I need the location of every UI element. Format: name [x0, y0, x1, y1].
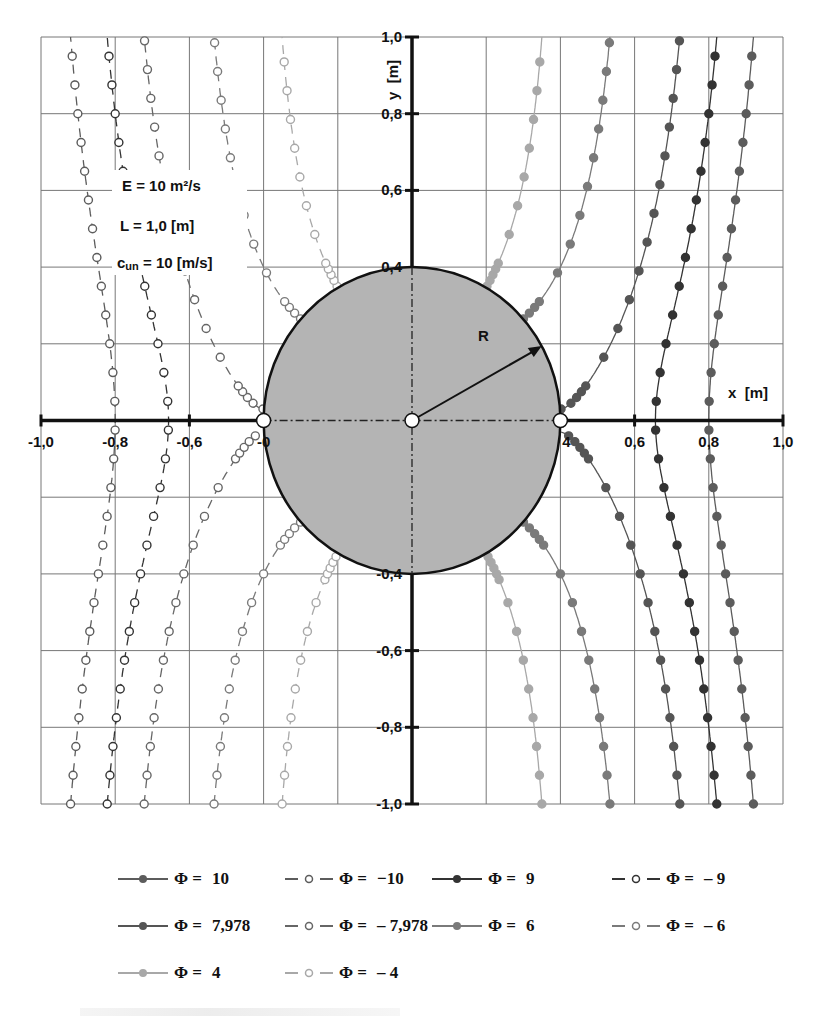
data-point: [710, 771, 718, 779]
data-point: [312, 599, 320, 607]
data-point: [90, 599, 98, 607]
legend-swatch-icon: [118, 872, 170, 886]
legend-value: 4: [212, 963, 221, 983]
data-point: [600, 742, 608, 750]
y-tick-label: -0,4: [376, 565, 403, 582]
data-point: [582, 382, 590, 390]
data-point: [250, 240, 258, 248]
legend-item: Φ = 7,978: [118, 915, 250, 937]
legend-item: Φ = – 4: [283, 962, 398, 984]
data-point: [556, 570, 564, 578]
data-point: [652, 426, 660, 434]
data-point: [625, 296, 633, 304]
data-point: [656, 181, 664, 189]
legend-item: Φ = 9: [432, 868, 535, 890]
data-point: [89, 225, 97, 233]
data-point: [713, 800, 721, 808]
data-point: [210, 800, 218, 808]
data-point: [71, 81, 79, 89]
data-point: [529, 714, 537, 722]
data-point: [650, 209, 658, 217]
series-phi-10: [705, 37, 758, 808]
data-point: [535, 771, 543, 779]
data-point: [281, 298, 289, 306]
data-point: [525, 144, 533, 152]
x-axis-label: x [m]: [728, 384, 768, 401]
data-point: [67, 800, 75, 808]
data-point: [214, 68, 222, 76]
param-e: E = 10 m²/s: [122, 177, 201, 194]
data-point: [141, 37, 149, 45]
data-point: [165, 627, 173, 635]
caption-faint: [80, 1008, 400, 1016]
data-point: [159, 656, 167, 664]
data-point: [748, 52, 756, 60]
data-point: [665, 123, 673, 131]
data-point: [596, 714, 604, 722]
legend-value: – 9: [704, 869, 725, 889]
data-point: [125, 627, 133, 635]
data-point: [234, 382, 242, 390]
data-point: [673, 541, 681, 549]
data-point: [538, 800, 546, 808]
data-point: [231, 656, 239, 664]
data-point: [131, 599, 139, 607]
data-point: [669, 94, 677, 102]
stagnation-point: [405, 414, 419, 428]
data-point: [687, 225, 695, 233]
y-tick-label: 1,0: [381, 28, 402, 45]
data-point: [701, 138, 709, 146]
data-point: [115, 138, 123, 146]
data-point: [533, 742, 541, 750]
data-point: [111, 110, 119, 118]
data-point: [109, 369, 117, 377]
stagnation-point: [553, 414, 567, 428]
legend-value: – 4: [377, 963, 398, 983]
data-point: [708, 81, 716, 89]
curve-line: [487, 555, 542, 804]
data-point: [121, 656, 129, 664]
data-point: [213, 771, 221, 779]
data-point: [93, 254, 101, 262]
data-point: [69, 771, 77, 779]
data-point: [296, 173, 304, 181]
data-point: [710, 340, 718, 348]
data-point: [675, 37, 683, 45]
data-point: [705, 397, 713, 405]
y-tick-label: 0,4: [381, 258, 403, 275]
data-point: [137, 570, 145, 578]
y-tick-label: -1,0: [376, 795, 402, 812]
data-point: [681, 254, 689, 262]
curve-line: [214, 522, 300, 804]
curve-line: [561, 37, 680, 409]
data-point: [99, 541, 107, 549]
data-point: [679, 570, 687, 578]
data-point: [741, 714, 749, 722]
data-point: [595, 125, 603, 133]
legend-phi-label: Φ =: [174, 916, 202, 936]
data-point: [666, 512, 674, 520]
data-point: [143, 771, 151, 779]
data-point: [494, 259, 502, 267]
data-point: [191, 296, 199, 304]
data-point: [155, 152, 163, 160]
legend-swatch-icon: [283, 966, 335, 980]
legend-swatch-icon: [118, 966, 170, 980]
stagnation-point: [257, 414, 271, 428]
data-point: [75, 714, 83, 722]
legend-item: Φ = 10: [118, 868, 229, 890]
data-point: [657, 656, 665, 664]
data-point: [730, 627, 738, 635]
data-point: [86, 627, 94, 635]
data-point: [695, 656, 703, 664]
data-point: [662, 685, 670, 693]
data-point: [673, 66, 681, 74]
data-point: [705, 110, 713, 118]
data-point: [533, 87, 541, 95]
data-point: [103, 512, 111, 520]
data-point: [102, 311, 110, 319]
legend-value: −10: [377, 869, 404, 889]
data-point: [150, 714, 158, 722]
data-point: [286, 115, 294, 123]
data-point: [635, 267, 643, 275]
